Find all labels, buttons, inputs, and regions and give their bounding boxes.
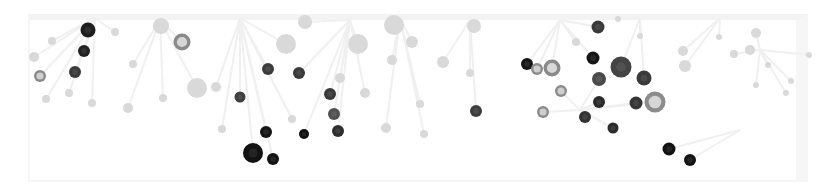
light-node	[129, 60, 137, 68]
light-node	[42, 95, 50, 103]
light-node	[211, 82, 221, 92]
light-node	[360, 88, 370, 98]
light-node	[783, 90, 789, 96]
light-node	[153, 18, 169, 34]
node-highlight	[331, 111, 336, 116]
light-node	[288, 115, 296, 123]
light-node	[187, 78, 207, 98]
light-node	[387, 55, 397, 65]
edge	[685, 18, 720, 66]
light-node	[437, 56, 449, 68]
light-node	[615, 16, 621, 22]
node-highlight	[265, 66, 270, 71]
light-node	[753, 82, 759, 88]
light-node	[29, 52, 39, 62]
node-highlight	[302, 132, 307, 137]
light-node	[159, 94, 167, 102]
node-highlight	[270, 156, 275, 161]
edge	[216, 18, 240, 87]
light-node	[123, 103, 133, 113]
light-node	[420, 130, 428, 138]
edge	[760, 50, 809, 55]
edge	[222, 18, 240, 129]
light-node	[467, 19, 481, 33]
edge	[443, 20, 470, 62]
light-node	[572, 38, 580, 46]
light-node	[745, 45, 755, 55]
node-highlight	[596, 76, 602, 82]
edge-layer	[34, 18, 809, 160]
node-highlight	[335, 128, 340, 133]
light-node	[416, 100, 424, 108]
node-highlight	[687, 157, 692, 162]
node-highlight	[633, 100, 639, 106]
edge	[756, 50, 760, 85]
node-inner	[539, 108, 546, 115]
node-highlight	[263, 129, 268, 134]
light-node	[751, 28, 761, 38]
edge	[618, 18, 640, 19]
light-node	[806, 52, 812, 58]
edge	[669, 130, 740, 149]
light-node	[716, 34, 722, 40]
light-node	[406, 36, 418, 48]
light-node	[218, 125, 226, 133]
node-highlight	[327, 91, 332, 96]
light-node	[88, 99, 96, 107]
edge	[640, 18, 644, 78]
light-node	[276, 34, 296, 54]
node-highlight	[238, 95, 243, 100]
node-inner	[557, 87, 564, 94]
node-highlight	[81, 48, 86, 53]
light-node	[788, 78, 794, 84]
node-highlight	[641, 75, 648, 82]
node-highlight	[582, 114, 587, 119]
node-highlight	[616, 62, 625, 71]
light-node	[384, 15, 404, 35]
node-highlight	[595, 24, 601, 30]
network-canvas	[0, 0, 836, 185]
edge	[683, 18, 720, 51]
light-node	[335, 73, 345, 83]
light-node	[679, 60, 691, 72]
node-highlight	[473, 108, 478, 113]
light-node	[730, 50, 738, 58]
node-inner	[547, 63, 557, 73]
edge	[240, 18, 273, 159]
node-inner	[177, 37, 187, 47]
light-node	[466, 69, 474, 77]
light-node	[298, 15, 312, 29]
edge	[350, 20, 365, 93]
light-node	[678, 46, 688, 56]
node-inner	[36, 72, 43, 79]
node-highlight	[611, 126, 616, 131]
node-highlight	[296, 70, 301, 75]
node-highlight	[590, 55, 596, 61]
node-inner	[649, 96, 662, 109]
edge	[690, 130, 740, 160]
node-inner	[533, 65, 540, 72]
node-highlight	[249, 149, 258, 158]
light-node	[111, 28, 119, 36]
node-highlight	[524, 61, 529, 66]
network-bubble-graphic	[0, 0, 836, 185]
light-node	[381, 123, 391, 133]
light-node	[65, 89, 73, 97]
node-highlight	[596, 99, 601, 104]
node-highlight	[85, 27, 92, 34]
node-highlight	[72, 69, 77, 74]
light-node	[48, 37, 56, 45]
light-node	[637, 33, 643, 39]
light-node	[765, 62, 771, 68]
edge	[400, 18, 420, 104]
node-highlight	[666, 146, 672, 152]
light-node	[348, 34, 368, 54]
